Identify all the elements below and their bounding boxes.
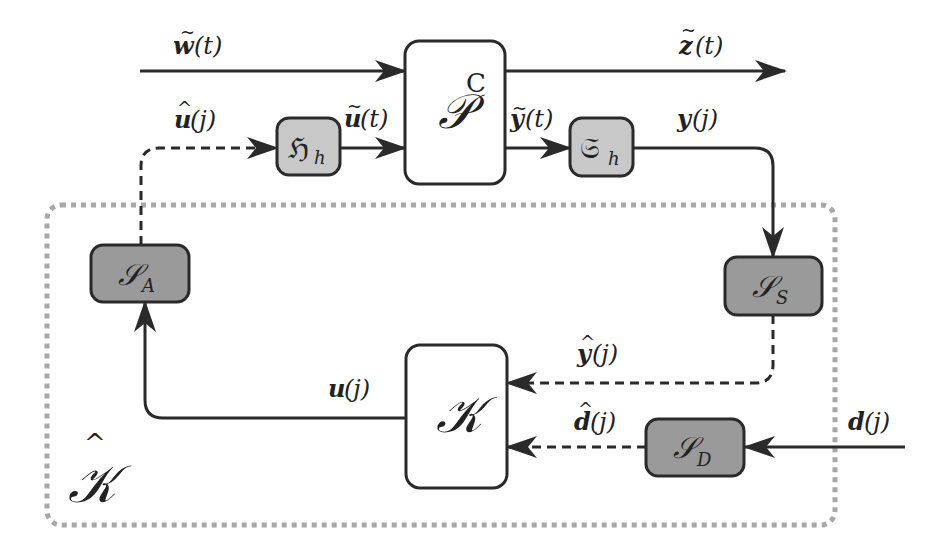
svg-text:y: y (509, 104, 526, 133)
disturbance-sensor-subscript: D (696, 449, 712, 470)
disturbance-sensor-block: 𝒮 D (646, 419, 744, 476)
sampler-subscript: h (608, 148, 620, 169)
svg-text:(j): (j) (864, 408, 890, 436)
hold-subscript: h (314, 147, 326, 168)
signal-y-hat: ^ y (j) (576, 332, 618, 368)
plant-superscript: C (466, 68, 486, 98)
svg-text:(j): (j) (344, 375, 370, 403)
y-hat-line (507, 315, 773, 383)
signal-y: y (j) (676, 104, 718, 133)
sampler-block: 𝔖 h (570, 118, 633, 176)
signal-d: d (j) (848, 407, 890, 436)
svg-text:(t): (t) (695, 32, 723, 60)
sensor-block: 𝒮 S (725, 257, 822, 315)
svg-text:(t): (t) (360, 105, 388, 133)
svg-text:u: u (328, 374, 345, 403)
hold-block: ℌ h (277, 118, 340, 175)
actuator-block: 𝒮 A (91, 245, 189, 302)
svg-text:d: d (574, 407, 591, 436)
sensor-subscript: S (776, 287, 788, 308)
svg-text:w: w (173, 31, 195, 60)
signal-y-tilde: ~ y (t) (509, 97, 553, 133)
plant-block: 𝒫 C (405, 41, 505, 184)
svg-text:(t): (t) (194, 32, 222, 60)
svg-text:(j): (j) (692, 105, 718, 133)
region-label-symbol: 𝒦 (68, 454, 132, 514)
block-diagram: 𝒫 C ℌ h 𝔖 h 𝒮 A 𝒮 S 𝒮 D 𝒦 ^ 𝒦 (0, 0, 943, 560)
svg-text:(t): (t) (525, 105, 553, 133)
sampler-symbol: 𝔖 (580, 132, 600, 165)
controller-block: 𝒦 (406, 345, 507, 488)
svg-text:u: u (174, 105, 191, 134)
signal-u: u (j) (328, 374, 370, 403)
hold-symbol: ℌ (288, 132, 309, 165)
actuator-subscript: A (140, 275, 155, 296)
signal-w-tilde: ~ w (t) (173, 21, 222, 60)
signal-u-hat: ^ u (j) (174, 98, 216, 134)
svg-text:u: u (344, 104, 361, 133)
svg-text:(j): (j) (592, 340, 618, 368)
svg-text:y: y (576, 339, 593, 368)
region-label: ^ 𝒦 (68, 428, 132, 514)
svg-text:(j): (j) (190, 106, 216, 134)
svg-text:y: y (676, 104, 693, 133)
svg-text:(j): (j) (590, 408, 616, 436)
signal-u-tilde: ~ u (t) (344, 95, 388, 133)
u-hat-line (141, 148, 277, 245)
signal-d-hat: ^ d (j) (574, 399, 616, 436)
signal-z-tilde: ~ z (t) (678, 19, 723, 60)
svg-text:d: d (848, 407, 865, 436)
svg-text:z: z (678, 31, 694, 60)
